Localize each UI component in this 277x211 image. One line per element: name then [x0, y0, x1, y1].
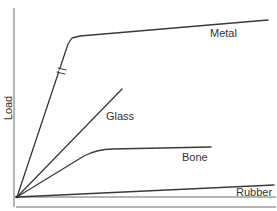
- y-axis-label: Load: [2, 96, 14, 120]
- load-deformation-chart: Load Metal Glass Bone Rubber: [0, 0, 277, 211]
- metal-curve: [17, 20, 268, 197]
- rubber-label: Rubber: [236, 186, 272, 198]
- glass-label: Glass: [106, 110, 135, 122]
- bone-label: Bone: [182, 151, 208, 163]
- glass-curve: [17, 89, 122, 197]
- metal-label: Metal: [210, 27, 237, 39]
- origin-point: [15, 196, 18, 199]
